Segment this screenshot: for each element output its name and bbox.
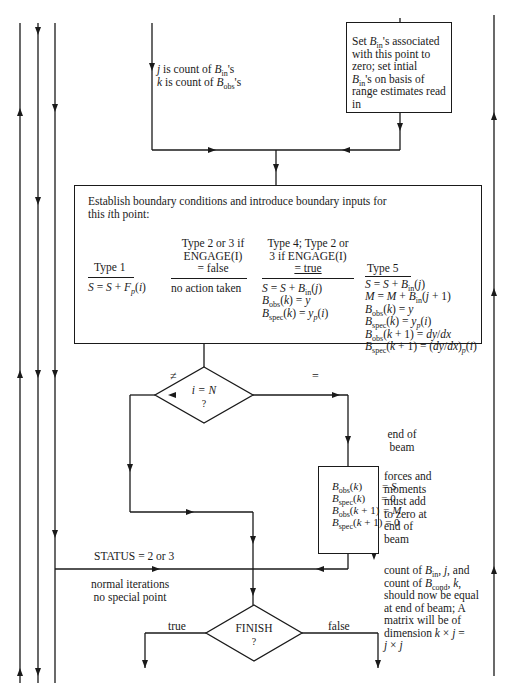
boundary-conditions-box: Establish boundary conditions and introd… [74, 185, 482, 344]
boundary-box-title: Establish boundary conditions and introd… [88, 195, 387, 221]
type2-3-false-column: Type 2 or 3 if ENGAGE(I) = false no acti… [171, 237, 255, 294]
forces-moments-note: forces and moments must add to zero at e… [384, 470, 432, 545]
branch-not-equal-label: ≠ [170, 370, 177, 383]
decision-finish-label: FINISH ? [224, 622, 284, 648]
type1-column: Type 1 S = S + Fp(i) [88, 261, 158, 293]
type5-column: Type 5 S = S + Bin(j) M = M + Bin(j + 1)… [365, 262, 481, 353]
branch-equal-label: = [312, 370, 319, 383]
end-of-beam-label: end of beam [382, 428, 422, 454]
init-inputs-box: Set Bin's associated with this point to … [346, 22, 452, 113]
decision-i-equals-n-label: i = N ? [184, 384, 224, 410]
count-definitions-note: j is count of Bin's k is count of Bobs's [157, 63, 241, 89]
branch-false-label: false [328, 620, 350, 633]
branch-true-label: true [168, 620, 186, 633]
normal-iterations-label: normal iterations no special point [70, 578, 190, 603]
matrix-dimension-note: count of Bin, j, and count of Bcond, k, … [384, 564, 479, 652]
type4-column: Type 4; Type 2 or 3 if ENGAGE(I) = true … [262, 237, 354, 319]
status-label: STATUS = 2 or 3 [94, 550, 174, 563]
